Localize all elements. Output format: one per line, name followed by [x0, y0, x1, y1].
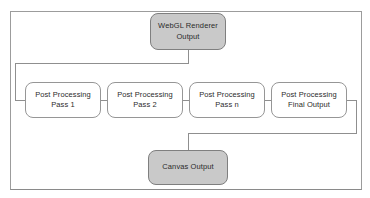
node-label-line: Post Processing	[117, 90, 173, 100]
node-post-processing-pass-n: Post Processing Pass n	[189, 82, 265, 118]
node-label-line: WebGL Renderer	[158, 21, 218, 31]
node-post-processing-final-output: Post Processing Final Output	[271, 82, 347, 118]
node-label-line: Final Output	[288, 100, 330, 110]
node-label-line: Pass n	[215, 100, 239, 110]
node-label-line: Post Processing	[281, 90, 337, 100]
node-post-processing-pass-2: Post Processing Pass 2	[107, 82, 183, 118]
node-label-line: Pass 1	[51, 100, 75, 110]
node-canvas-output: Canvas Output	[148, 150, 228, 185]
node-label-line: Post Processing	[199, 90, 255, 100]
node-webgl-renderer-output: WebGL Renderer Output	[150, 13, 226, 50]
node-label-line: Post Processing	[35, 90, 91, 100]
node-label-line: Output	[176, 32, 199, 42]
node-label-line: Pass 2	[133, 100, 157, 110]
diagram-canvas: WebGL Renderer Output Post Processing Pa…	[0, 0, 370, 198]
node-post-processing-pass-1: Post Processing Pass 1	[25, 82, 101, 118]
node-label-line: Canvas Output	[162, 162, 213, 172]
